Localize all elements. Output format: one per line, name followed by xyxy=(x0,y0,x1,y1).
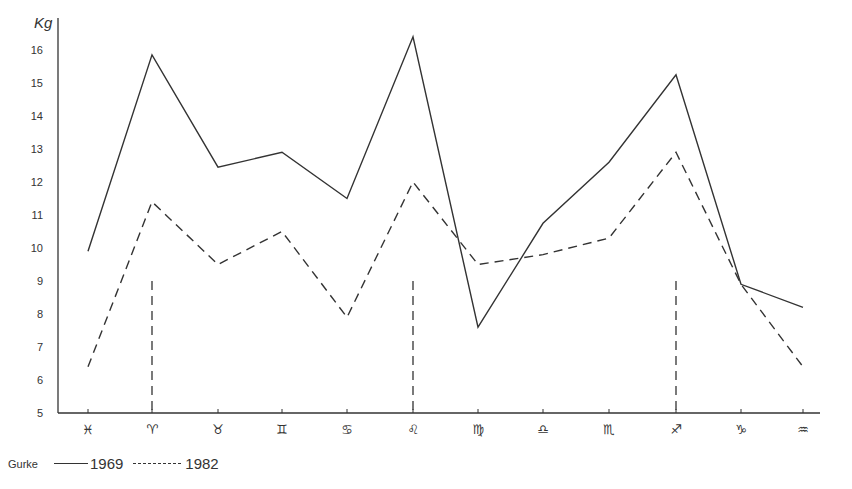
series-1969 xyxy=(88,37,803,327)
y-axis-unit-label: Kg xyxy=(34,14,53,31)
x-tick-label-taurus: ♉ xyxy=(212,422,224,437)
y-tick-label: 10 xyxy=(31,242,43,254)
y-tick-label: 14 xyxy=(31,110,43,122)
legend-title: Gurke xyxy=(8,458,38,470)
x-tick-label-capricorn: ♑ xyxy=(735,422,747,437)
legend-swatch-solid xyxy=(54,463,88,464)
x-tick-label-libra: ♎ xyxy=(537,422,549,437)
x-tick-label-scorpio: ♏ xyxy=(603,422,615,437)
x-tick-label-gemini: ♊ xyxy=(276,422,288,437)
x-tick-label-pisces: ♓ xyxy=(82,422,94,437)
x-tick-label-sagittarius: ♐ xyxy=(670,422,682,437)
y-tick-label: 9 xyxy=(37,275,43,287)
y-tick-label: 15 xyxy=(31,77,43,89)
x-tick-label-leo: ♌ xyxy=(407,422,419,437)
x-tick-label-aries: ♈ xyxy=(146,422,158,437)
legend-label-1969: 1969 xyxy=(90,455,123,472)
legend-swatch-dashed xyxy=(133,463,181,464)
line-chart: Kg5678910111213141516♓♈♉♊♋♌♍♎♏♐♑♒ xyxy=(0,0,852,489)
x-tick-label-aquarius: ♒ xyxy=(797,422,809,437)
legend-label-1982: 1982 xyxy=(185,455,218,472)
y-tick-label: 7 xyxy=(37,341,43,353)
y-tick-label: 8 xyxy=(37,308,43,320)
y-tick-label: 11 xyxy=(32,209,43,221)
y-tick-label: 13 xyxy=(31,143,43,155)
legend: Gurke 1969 1982 xyxy=(8,455,219,472)
y-tick-label: 16 xyxy=(31,44,43,56)
y-tick-label: 12 xyxy=(31,176,43,188)
y-tick-label: 5 xyxy=(37,407,43,419)
y-tick-label: 6 xyxy=(37,374,43,386)
x-tick-label-cancer: ♋ xyxy=(341,422,353,437)
x-tick-label-virgo: ♍ xyxy=(472,422,484,437)
